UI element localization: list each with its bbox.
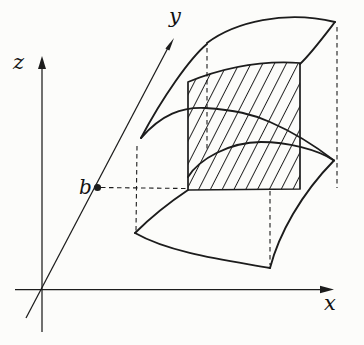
surface-bottom-front-edge <box>135 233 270 268</box>
surface-top-right-edge <box>300 22 335 64</box>
point-b-dot <box>94 184 101 191</box>
dashed-guide-b-to-section <box>101 188 187 189</box>
diagram-svg: z y x b <box>0 0 364 345</box>
y-axis-label: y <box>168 4 182 28</box>
cross-section-region <box>188 62 300 190</box>
figure-canvas: z y x b <box>0 0 364 345</box>
y-axis-arrowhead <box>165 38 174 51</box>
surface-top-back-edge <box>207 17 335 43</box>
x-axis-label: x <box>324 291 336 315</box>
dashed-guide-front-left-edge <box>136 146 137 231</box>
y-axis-line <box>26 44 170 318</box>
z-axis-label: z <box>12 50 25 74</box>
z-axis-arrowhead <box>38 56 46 69</box>
surface-bottom-left-edge <box>135 190 188 233</box>
point-b-label: b <box>79 175 92 199</box>
